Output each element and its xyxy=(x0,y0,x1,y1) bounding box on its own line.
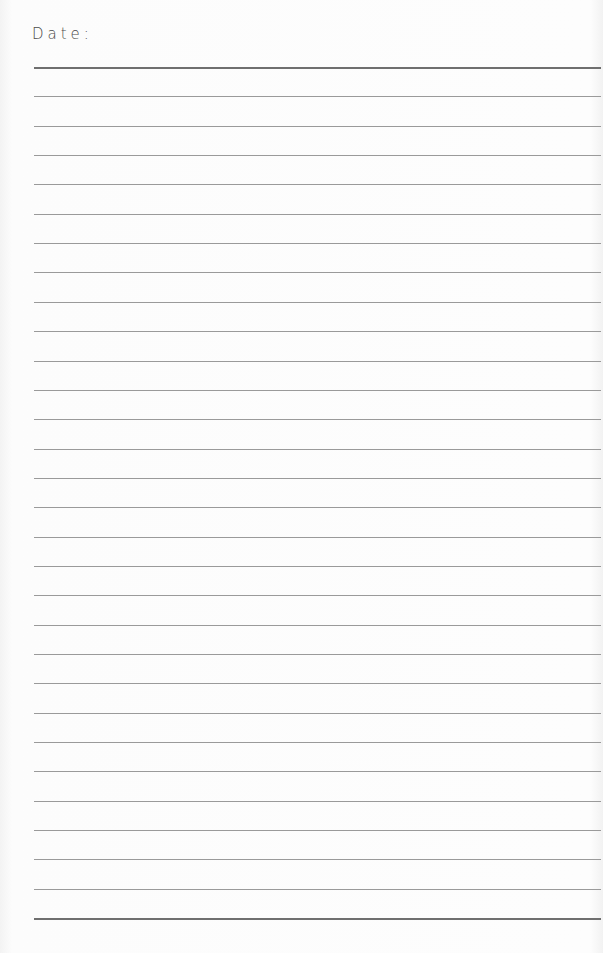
ruled-line xyxy=(34,155,601,156)
ruled-line xyxy=(34,449,601,450)
ruled-line xyxy=(34,478,601,479)
ruled-line xyxy=(34,595,601,596)
ruled-line xyxy=(34,918,601,920)
ruled-line xyxy=(34,713,601,714)
ruled-line xyxy=(34,67,601,69)
ruled-line xyxy=(34,889,601,890)
ruled-line xyxy=(34,537,601,538)
ruled-line xyxy=(34,390,601,391)
ruled-line xyxy=(34,243,601,244)
ruled-line xyxy=(34,126,601,127)
ruled-line xyxy=(34,683,601,684)
ruled-line xyxy=(34,742,601,743)
ruled-line xyxy=(34,801,601,802)
ruled-line xyxy=(34,419,601,420)
ruled-line xyxy=(34,830,601,831)
ruled-line xyxy=(34,859,601,860)
ruled-line xyxy=(34,184,601,185)
ruled-line xyxy=(34,771,601,772)
ruled-line xyxy=(34,214,601,215)
ruled-line xyxy=(34,507,601,508)
date-label: Date: xyxy=(32,25,93,43)
ruled-line xyxy=(34,566,601,567)
ruled-line xyxy=(34,302,601,303)
notebook-page: Date: xyxy=(0,0,603,953)
ruled-line xyxy=(34,654,601,655)
ruled-line xyxy=(34,272,601,273)
ruled-line xyxy=(34,361,601,362)
ruled-line xyxy=(34,625,601,626)
ruled-line xyxy=(34,96,601,97)
ruled-line xyxy=(34,331,601,332)
